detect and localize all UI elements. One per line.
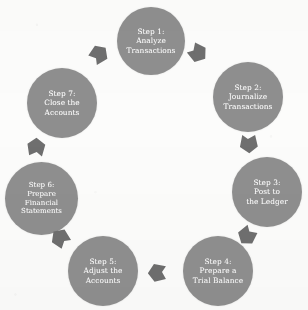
step-node-3[interactable]: Step 3: Post to the Ledger <box>232 157 302 227</box>
accounting-cycle-diagram: Step 1: Analyze Transactions Step 2: Jou… <box>0 0 308 310</box>
arrow-step-2-to-step-3 <box>238 133 261 156</box>
step-1-label: Step 1: Analyze Transactions <box>123 27 180 55</box>
step-node-7[interactable]: Step 7: Close the Accounts <box>27 68 97 138</box>
step-node-6[interactable]: Step 6: Prepare Financial Statements <box>5 162 78 235</box>
step-2-label: Step 2: Journalize Transactions <box>220 83 277 111</box>
arrow-step-1-to-step-2 <box>183 38 214 69</box>
arrow-step-7-to-step-1 <box>83 38 114 69</box>
step-6-label: Step 6: Prepare Financial Statements <box>17 181 66 216</box>
step-4-label: Step 4: Prepare a Trial Balance <box>189 257 247 285</box>
step-node-1[interactable]: Step 1: Analyze Transactions <box>117 7 185 75</box>
step-node-5[interactable]: Step 5: Adjust the Accounts <box>68 236 138 306</box>
step-node-2[interactable]: Step 2: Journalize Transactions <box>213 62 283 132</box>
step-7-label: Step 7: Close the Accounts <box>40 89 84 117</box>
arrow-step-6-to-step-7 <box>24 135 47 158</box>
step-5-label: Step 5: Adjust the Accounts <box>80 257 127 285</box>
arrow-step-4-to-step-5 <box>146 262 169 285</box>
step-3-label: Step 3: Post to the Ledger <box>242 178 292 206</box>
